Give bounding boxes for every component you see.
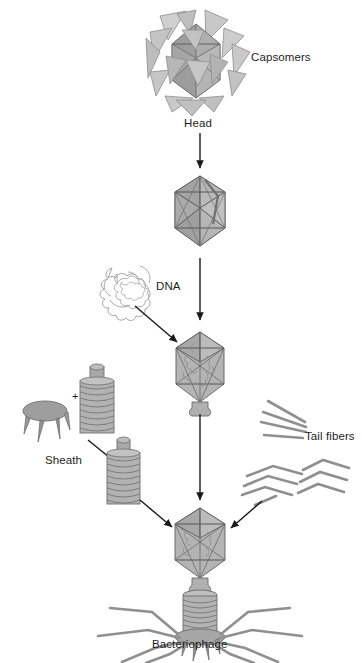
label-sheath: Sheath bbox=[45, 454, 82, 466]
label-plus-sign: + bbox=[72, 390, 79, 402]
label-bacteriophage: Bacteriophage bbox=[152, 638, 227, 650]
label-head: Head bbox=[184, 117, 212, 129]
label-dna: DNA bbox=[156, 280, 181, 292]
label-tail-fibers: Tail fibers bbox=[305, 430, 355, 442]
assembly-figure: Capsomers Head DNA bbox=[0, 0, 362, 663]
bacteriophage-assembly-diagram: Capsomers Head DNA bbox=[0, 0, 362, 663]
label-capsomers: Capsomers bbox=[251, 51, 311, 63]
